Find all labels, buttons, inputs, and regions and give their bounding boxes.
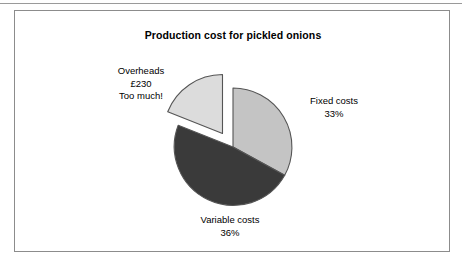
variable-costs-callout: Variable costs 36% bbox=[170, 214, 290, 239]
chart-frame: Production cost for pickled onions Overh… bbox=[14, 10, 450, 252]
variable-costs-label-pct: 36% bbox=[170, 227, 290, 240]
variable-costs-label-name: Variable costs bbox=[170, 214, 290, 227]
overheads-callout: Overheads £230 Too much! bbox=[93, 65, 189, 103]
overheads-label-amount: £230 bbox=[93, 78, 189, 91]
fixed-costs-label-pct: 33% bbox=[286, 108, 382, 121]
fixed-costs-label-name: Fixed costs bbox=[286, 95, 382, 108]
fixed-costs-callout: Fixed costs 33% bbox=[286, 95, 382, 120]
page-top-rule bbox=[0, 3, 462, 4]
overheads-label-name: Overheads bbox=[93, 65, 189, 78]
overheads-label-note: Too much! bbox=[93, 90, 189, 103]
